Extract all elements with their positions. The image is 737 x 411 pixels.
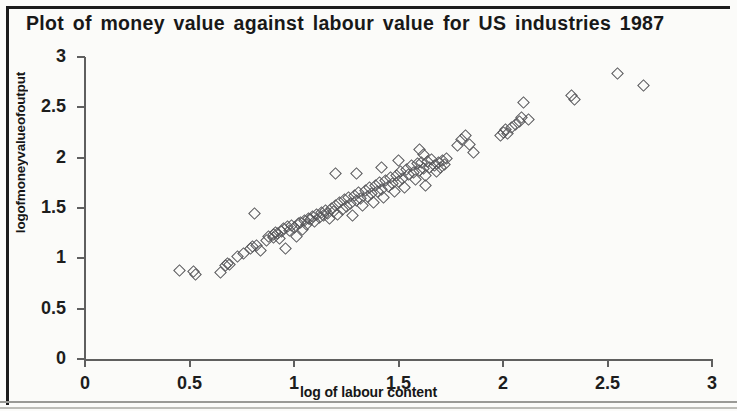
scatter-plot-figure: Plot of money value against labour value… (0, 0, 737, 411)
y-tick-label: 0 (56, 348, 66, 369)
data-point (518, 96, 531, 109)
data-point (375, 161, 388, 174)
figure-border-left (6, 6, 9, 405)
data-point (173, 264, 186, 277)
y-tick: 1.5 (77, 207, 85, 209)
y-tick-label: 2.5 (41, 96, 66, 117)
data-point (350, 167, 363, 180)
data-point (398, 181, 411, 194)
figure-border-top (6, 6, 730, 9)
x-tick-label: 0 (80, 373, 90, 394)
data-point (248, 207, 261, 220)
x-tick (711, 359, 713, 367)
y-tick: 0.5 (77, 308, 85, 310)
y-axis-line (84, 57, 86, 361)
data-point (329, 167, 342, 180)
y-tick-label: 1.5 (41, 197, 66, 218)
data-point (612, 67, 625, 80)
x-tick-label: 1 (289, 373, 299, 394)
y-tick-label: 0.5 (41, 297, 66, 318)
y-tick: 2.5 (77, 106, 85, 108)
y-tick-label: 1 (56, 247, 66, 268)
x-tick (189, 359, 191, 367)
data-point (279, 242, 292, 255)
x-tick-label: 2 (498, 373, 508, 394)
y-tick-label: 2 (56, 146, 66, 167)
x-tick-label: 3 (707, 373, 717, 394)
y-tick: 3 (77, 56, 85, 58)
chart-title: Plot of money value against labour value… (26, 12, 664, 35)
x-tick (607, 359, 609, 367)
x-tick (398, 359, 400, 367)
x-tick (293, 359, 295, 367)
x-tick (502, 359, 504, 367)
data-point (419, 179, 432, 192)
y-axis-title: logofmoneyvalueofoutput (13, 72, 33, 233)
y-tick-label: 3 (56, 46, 66, 67)
y-tick: 2 (77, 157, 85, 159)
y-tick: 1 (77, 257, 85, 259)
x-tick-label: 0.5 (177, 373, 202, 394)
x-tick (84, 359, 86, 367)
figure-border-bottom-secondary (0, 407, 737, 409)
x-tick-label: 1.5 (386, 373, 411, 394)
x-axis-title: log of labour content (0, 384, 737, 400)
plot-area: 00.511.522.53 00.511.522.53 (85, 57, 712, 360)
data-point (637, 79, 650, 92)
figure-border-bottom (0, 401, 737, 403)
x-tick-label: 2.5 (595, 373, 620, 394)
